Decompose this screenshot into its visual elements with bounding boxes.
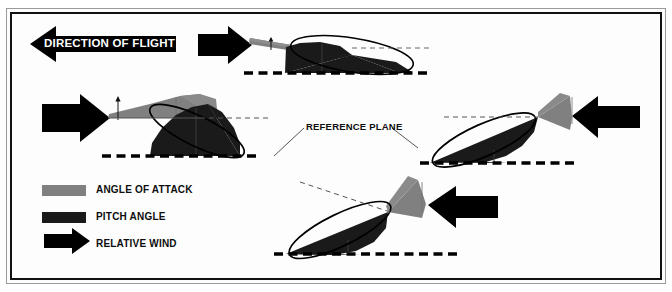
figure-canvas: DIRECTION OF FLIGHT REFERENCE PLANE ANGL… — [0, 0, 672, 292]
diagram-top-right — [198, 26, 432, 81]
diagram-bottom-center — [274, 176, 498, 269]
angle-of-attack-wedge-middle-right — [538, 93, 572, 130]
relative-wind-arrow-top-right — [198, 26, 252, 64]
chord-line-bottom-center — [300, 182, 390, 212]
pitch-angle-wedge-top-right — [285, 42, 412, 73]
reference-plane-leaders — [274, 128, 418, 156]
legend-swatch-relative-wind — [44, 228, 90, 254]
legend-label-relative-wind: RELATIVE WIND — [96, 238, 177, 249]
relative-wind-arrow-middle-right — [572, 96, 640, 138]
direction-of-flight-label: DIRECTION OF FLIGHT — [44, 37, 175, 49]
legend-swatch-pitch-angle — [42, 212, 86, 223]
relative-wind-arrow-bottom-center — [428, 186, 498, 228]
diagram-middle-left — [42, 94, 268, 167]
relative-wind-arrow-middle-left — [42, 94, 110, 142]
angle-of-attack-wedge-bottom-center — [386, 176, 426, 218]
reference-plane-label: REFERENCE PLANE — [306, 121, 402, 132]
pitch-angle-wedge-middle-right — [430, 117, 538, 163]
legend-label-angle-of-attack: ANGLE OF ATTACK — [96, 184, 193, 195]
legend-swatch-angle-of-attack — [42, 185, 86, 196]
legend-label-pitch-angle: PITCH ANGLE — [96, 211, 166, 222]
diagram-middle-right — [420, 93, 640, 177]
